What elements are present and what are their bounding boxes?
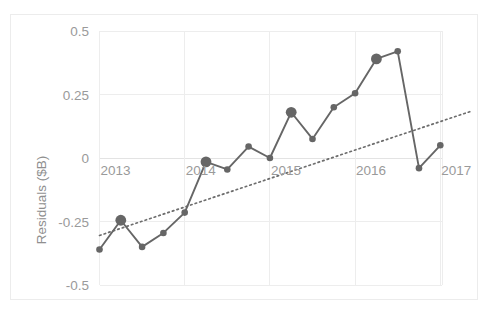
y-tick-label: 0.25	[63, 88, 89, 103]
data-point-marker	[245, 143, 252, 150]
x-tick-label: 2013	[101, 163, 131, 178]
data-point-marker	[416, 165, 423, 172]
data-point-marker	[352, 90, 359, 97]
data-point-marker	[160, 230, 167, 237]
y-axis-tick-labels: 0.50.250-0.25-0.5	[58, 24, 89, 293]
y-tick-label: -0.25	[58, 215, 89, 230]
data-point-marker	[371, 54, 382, 65]
data-point-marker	[224, 166, 231, 173]
data-point-marker	[267, 155, 274, 162]
data-point-marker	[331, 104, 338, 111]
x-tick-label: 2016	[356, 163, 386, 178]
data-point-marker	[96, 246, 103, 253]
data-point-marker	[139, 244, 146, 251]
y-axis-title: Residuals ($B)	[34, 156, 49, 245]
data-point-marker	[437, 142, 444, 149]
y-tick-label: 0.5	[70, 24, 89, 39]
data-point-marker	[394, 48, 401, 55]
data-point-marker	[115, 215, 126, 226]
x-tick-label: 2017	[441, 163, 471, 178]
residuals-line-chart: 0.50.250-0.25-0.5 20132014201520162017 R…	[0, 0, 490, 314]
data-point-marker	[286, 107, 297, 118]
data-point-marker	[309, 136, 316, 143]
x-axis-tick-labels: 20132014201520162017	[101, 163, 472, 178]
x-tick-label: 2015	[271, 163, 301, 178]
x-tick-label: 2014	[186, 163, 217, 178]
y-tick-label: 0	[81, 151, 89, 166]
y-tick-label: -0.5	[66, 278, 89, 293]
data-point-marker	[181, 209, 188, 216]
